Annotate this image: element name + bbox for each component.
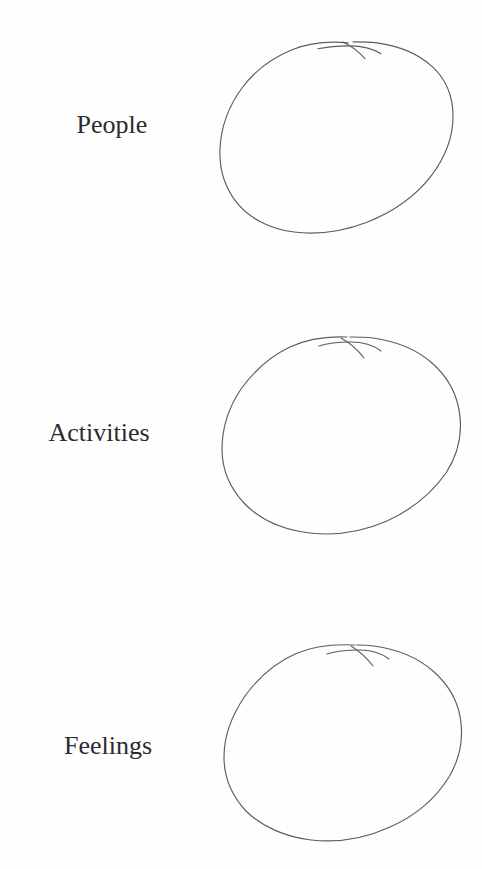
worksheet-diagram: People Activities Feelings (0, 0, 482, 869)
row-label-feelings: Feelings (0, 733, 216, 759)
hand-drawn-circle-activities (219, 332, 461, 536)
row-label-activities: Activities (0, 420, 198, 446)
hand-drawn-circle-people (217, 38, 457, 234)
row-label-people: People (0, 112, 224, 138)
hand-drawn-circle-feelings (221, 641, 463, 842)
